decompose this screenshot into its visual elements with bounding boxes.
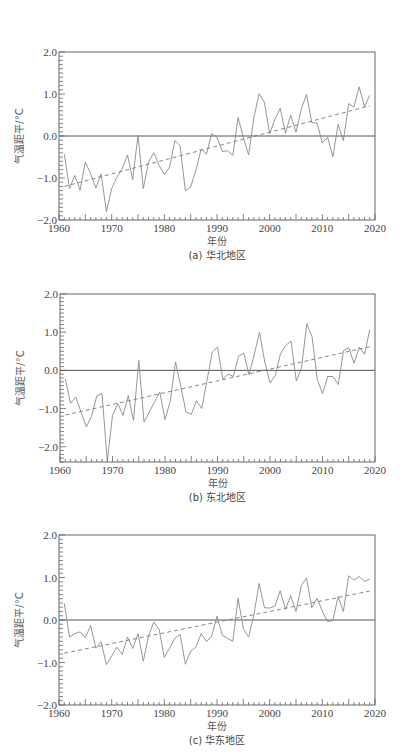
y-axis-title: 气温距平/°C bbox=[13, 592, 25, 647]
line-chart-c: −2.0−1.00.01.02.019601970198019902000201… bbox=[0, 506, 408, 754]
chart-panel-b-northeast-china: −2.0−1.00.01.02.019601970198019902000201… bbox=[0, 264, 408, 506]
x-tick-label: 1980 bbox=[154, 464, 177, 476]
y-axis-title: 气温距平/°C bbox=[13, 108, 25, 163]
y-tick-label: −1.0 bbox=[38, 403, 58, 415]
x-tick-label: 1990 bbox=[206, 222, 229, 234]
y-axis-ticks bbox=[60, 294, 66, 462]
y-tick-label: 2.0 bbox=[44, 288, 58, 300]
y-tick-label: 1.0 bbox=[43, 88, 57, 100]
x-tick-label: 2000 bbox=[259, 464, 282, 476]
y-tick-label: −1.0 bbox=[37, 172, 57, 184]
y-tick-label: 0.0 bbox=[43, 614, 57, 626]
y-axis-title: 气温距平/°C bbox=[14, 350, 26, 405]
x-tick-label: 2000 bbox=[259, 707, 282, 719]
y-tick-label: 1.0 bbox=[44, 326, 58, 338]
y-tick-label: 0.0 bbox=[44, 364, 58, 376]
y-tick-label: 1.0 bbox=[43, 572, 57, 584]
x-tick-label: 1970 bbox=[101, 707, 124, 719]
anomaly-line bbox=[65, 324, 370, 461]
x-tick-label: 1980 bbox=[153, 222, 176, 234]
x-tick-label: 2010 bbox=[311, 222, 334, 234]
x-tick-label: 2000 bbox=[259, 222, 282, 234]
x-tick-label: 1990 bbox=[207, 464, 230, 476]
figure-caption: (b) 东北地区 bbox=[189, 491, 246, 503]
line-chart-a: −2.0−1.00.01.02.019601970198019902000201… bbox=[0, 0, 408, 264]
x-tick-label: 2020 bbox=[364, 707, 387, 719]
x-tick-label: 1970 bbox=[102, 464, 125, 476]
line-chart-b: −2.0−1.00.01.02.019601970198019902000201… bbox=[0, 264, 408, 506]
anomaly-line bbox=[64, 87, 369, 212]
y-tick-label: 2.0 bbox=[43, 46, 57, 58]
chart-panel-a-north-china: −2.0−1.00.01.02.019601970198019902000201… bbox=[0, 0, 408, 264]
x-tick-label: 1980 bbox=[153, 707, 176, 719]
x-tick-label: 2020 bbox=[364, 464, 387, 476]
y-tick-label: −1.0 bbox=[37, 657, 57, 669]
x-tick-label: 1960 bbox=[48, 707, 71, 719]
trend-line bbox=[64, 591, 369, 653]
x-tick-label: 1970 bbox=[101, 222, 124, 234]
trend-line bbox=[64, 106, 369, 187]
chart-panel-c-east-china: −2.0−1.00.01.02.019601970198019902000201… bbox=[0, 506, 408, 754]
x-axis-ticks bbox=[59, 699, 375, 705]
trend-line bbox=[65, 347, 370, 415]
x-tick-label: 2010 bbox=[312, 464, 335, 476]
x-axis-title: 年份 bbox=[207, 235, 227, 247]
x-axis-ticks bbox=[59, 214, 375, 220]
x-axis-title: 年份 bbox=[207, 720, 227, 732]
y-tick-label: 0.0 bbox=[43, 130, 57, 142]
x-tick-label: 1960 bbox=[49, 464, 72, 476]
x-tick-label: 1990 bbox=[206, 707, 229, 719]
figure-caption: (a) 华北地区 bbox=[188, 249, 245, 261]
y-tick-label: −2.0 bbox=[38, 441, 58, 453]
x-axis-title: 年份 bbox=[208, 477, 228, 489]
x-tick-label: 1960 bbox=[48, 222, 71, 234]
x-tick-label: 2020 bbox=[364, 222, 387, 234]
x-tick-label: 2010 bbox=[311, 707, 334, 719]
y-tick-label: 2.0 bbox=[43, 529, 57, 541]
figure-caption: (c) 华东地区 bbox=[189, 734, 245, 746]
